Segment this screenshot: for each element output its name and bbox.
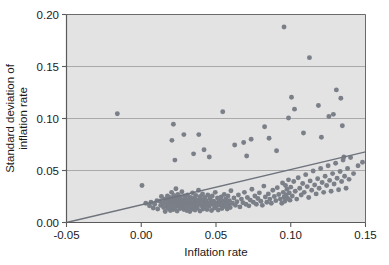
data-point <box>269 201 274 206</box>
data-point <box>351 171 356 176</box>
data-point <box>314 191 319 196</box>
data-point <box>249 137 254 142</box>
x-tick-label: 0.00 <box>130 229 152 241</box>
data-point <box>291 179 296 184</box>
data-point <box>169 138 174 143</box>
data-point <box>267 136 272 141</box>
data-point <box>342 174 347 179</box>
data-point <box>286 177 291 182</box>
data-point <box>319 135 324 140</box>
x-axis-title: Inflation rate <box>184 246 247 258</box>
data-point <box>329 189 334 194</box>
data-point <box>306 195 311 200</box>
data-point <box>254 202 259 207</box>
data-point <box>220 109 225 114</box>
data-point <box>286 116 291 121</box>
data-point <box>228 188 233 193</box>
x-tick-label: 0.10 <box>280 229 302 241</box>
data-point <box>312 183 317 188</box>
data-point <box>331 112 336 117</box>
data-point <box>172 158 177 163</box>
data-point <box>257 190 262 195</box>
plot-canvas: -0.050.000.050.100.150.000.050.100.150.2… <box>0 0 389 265</box>
y-tick-label: 0.10 <box>37 113 59 125</box>
data-point <box>296 175 301 180</box>
data-point <box>226 194 231 199</box>
data-point <box>290 194 295 199</box>
data-point <box>181 132 186 137</box>
data-point <box>270 188 275 193</box>
data-point <box>282 25 287 30</box>
data-point <box>338 169 343 174</box>
data-point <box>335 176 340 181</box>
data-point <box>242 190 247 195</box>
data-point <box>327 178 332 183</box>
data-point <box>321 190 326 195</box>
data-point <box>326 114 331 119</box>
data-point <box>317 186 322 191</box>
data-point <box>292 107 297 112</box>
data-point <box>347 177 352 182</box>
data-point <box>308 178 313 183</box>
data-point <box>305 184 310 189</box>
data-point <box>360 160 365 165</box>
data-point <box>244 153 249 158</box>
data-point <box>260 203 265 208</box>
data-point <box>140 183 145 188</box>
data-point <box>232 143 237 148</box>
data-point <box>326 163 331 168</box>
data-point <box>303 172 308 177</box>
data-point <box>171 122 176 127</box>
data-point <box>309 188 314 193</box>
data-point <box>237 204 242 209</box>
data-point <box>333 161 338 166</box>
data-point <box>236 192 241 197</box>
data-point <box>249 187 254 192</box>
data-point <box>191 151 196 156</box>
data-point <box>323 174 328 179</box>
data-point <box>273 198 278 203</box>
y-axis-title-line: Standard deviation of <box>4 63 16 172</box>
y-tick-label: 0.05 <box>37 165 59 177</box>
y-tick-label: 0.15 <box>37 61 59 73</box>
data-point <box>307 55 312 60</box>
data-point <box>241 140 246 145</box>
data-point <box>246 203 251 208</box>
data-point <box>293 189 298 194</box>
data-point <box>288 198 293 203</box>
data-point <box>213 190 218 195</box>
data-point <box>300 181 305 186</box>
data-point <box>332 182 337 187</box>
data-point <box>311 169 316 174</box>
data-point <box>179 189 184 194</box>
scatter-plot-figure: -0.050.000.050.100.150.000.050.100.150.2… <box>0 0 389 265</box>
y-tick-label: 0.20 <box>37 9 59 21</box>
data-point <box>344 186 349 191</box>
x-tick-label: 0.15 <box>354 229 376 241</box>
data-point <box>228 205 233 210</box>
data-point <box>274 148 279 153</box>
data-point <box>288 185 293 190</box>
data-point <box>115 111 120 116</box>
data-point <box>261 184 266 189</box>
data-point <box>336 187 341 192</box>
y-axis-title-line: inflation rate <box>17 87 29 150</box>
data-point <box>339 179 344 184</box>
x-tick-label: 0.05 <box>205 229 227 241</box>
data-point <box>294 197 299 202</box>
data-point <box>340 123 345 128</box>
data-point <box>338 96 343 101</box>
data-point <box>289 95 294 100</box>
data-point <box>356 163 361 168</box>
data-point <box>193 193 198 198</box>
data-point <box>330 171 335 176</box>
data-point <box>275 185 280 190</box>
data-point <box>234 199 239 204</box>
y-tick-label: 0.00 <box>37 217 59 229</box>
data-point <box>320 180 325 185</box>
data-point <box>345 166 350 171</box>
data-point <box>302 190 307 195</box>
data-point <box>173 186 178 191</box>
data-point <box>318 166 323 171</box>
y-axis-title: Standard deviation ofinflation rate <box>4 63 29 172</box>
